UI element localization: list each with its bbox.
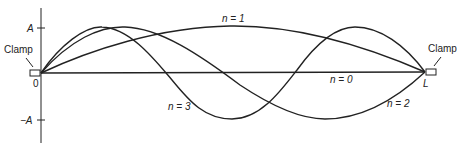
tick-label-minus-A: −A <box>20 115 33 126</box>
right-clamp-label: Clamp <box>428 43 457 54</box>
standing-wave-diagram: A −A Clamp Clamp 0 L n = 1 n = 0 n = 2 n… <box>0 0 464 151</box>
mode-1-label: n = 1 <box>222 13 245 24</box>
left-clamp <box>30 70 40 76</box>
mode-2-label: n = 2 <box>387 98 410 109</box>
mode-0-line <box>41 72 425 73</box>
mode-1-curve <box>41 26 425 73</box>
mode-3-label-text: n = 3 <box>168 101 191 112</box>
right-clamp <box>426 69 436 75</box>
left-clamp-arrow <box>26 58 33 67</box>
end-label: L <box>423 78 429 89</box>
mode-0-label: n = 0 <box>330 74 353 85</box>
left-clamp-label: Clamp <box>4 44 33 55</box>
origin-label: 0 <box>33 78 39 89</box>
tick-label-A: A <box>26 23 34 34</box>
right-clamp-arrow <box>434 57 441 66</box>
